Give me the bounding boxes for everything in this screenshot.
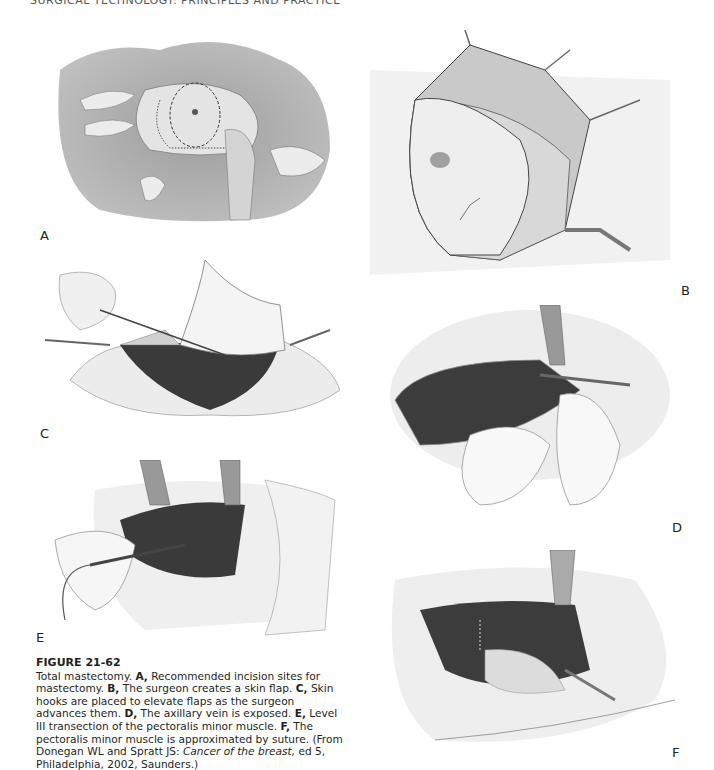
caption-label-e: E,: [295, 707, 306, 719]
figure-panel-d: [380, 305, 670, 525]
caption-label-a: A,: [135, 670, 147, 682]
panel-label-b: B: [681, 283, 690, 298]
caption-label-c: C,: [296, 682, 308, 694]
illustration-incision-sites: [40, 30, 340, 230]
illustration-pectoralis-suture: [375, 550, 675, 750]
figure-number: FIGURE 21-62: [36, 657, 346, 670]
illustration-axillary-vein: [380, 305, 670, 525]
panel-label-e: E: [36, 630, 44, 645]
figure-caption: FIGURE 21-62 Total mastectomy. A, Recomm…: [36, 657, 346, 770]
panel-label-d: D: [672, 520, 682, 535]
figure-panel-f: [375, 550, 675, 750]
illustration-skin-flap: [370, 30, 670, 285]
illustration-pectoralis-transection: [35, 460, 345, 640]
caption-label-f: F,: [280, 720, 290, 732]
figure-panel-a: [40, 30, 340, 230]
caption-label-b: B,: [107, 682, 119, 694]
caption-text-d: The axillary vein is exposed.: [137, 707, 294, 719]
caption-label-d: D,: [124, 707, 137, 719]
panel-label-f: F: [672, 745, 679, 760]
panel-label-c: C: [40, 426, 49, 441]
illustration-skin-hooks: [40, 250, 340, 420]
running-head: SURGICAL TECHNOLOGY: PRINCIPLES AND PRAC…: [30, 0, 341, 7]
figure-panel-c: [40, 250, 340, 420]
figure-panel-e: [35, 460, 345, 640]
caption-intro: Total mastectomy.: [36, 670, 135, 682]
caption-source-title: Cancer of the breast,: [183, 745, 295, 757]
caption-text-b: The surgeon creates a skin flap.: [119, 682, 295, 694]
panel-label-a: A: [40, 228, 49, 243]
figure-panel-b: [370, 30, 670, 285]
